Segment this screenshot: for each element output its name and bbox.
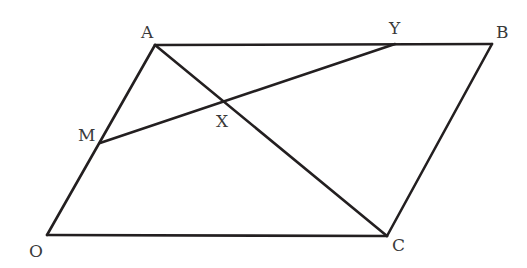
point-label-c: C: [392, 235, 405, 255]
parallelogram-diagram: ABYMXOC: [0, 0, 527, 268]
segment-co: [47, 235, 387, 236]
segment-my: [100, 44, 395, 143]
point-label-x: X: [216, 111, 229, 131]
point-label-m: M: [78, 125, 95, 145]
segment-ab: [155, 44, 492, 45]
segment-ac: [155, 45, 387, 236]
point-label-o: O: [29, 241, 43, 261]
segments-group: [47, 44, 492, 236]
point-label-a: A: [140, 22, 154, 42]
point-label-y: Y: [388, 18, 401, 38]
segment-bc: [387, 44, 492, 236]
point-label-b: B: [496, 22, 509, 42]
segment-oa: [47, 45, 155, 235]
